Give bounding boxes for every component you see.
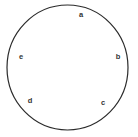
point-label-d: d — [28, 97, 33, 105]
circle-outline-svg — [0, 0, 138, 137]
circle-outline — [7, 5, 128, 130]
point-label-a: a — [79, 11, 83, 19]
point-label-b: b — [116, 53, 121, 61]
point-label-c: c — [101, 99, 105, 107]
circle-diagram: a b c d e — [0, 0, 138, 137]
point-label-e: e — [19, 53, 23, 61]
